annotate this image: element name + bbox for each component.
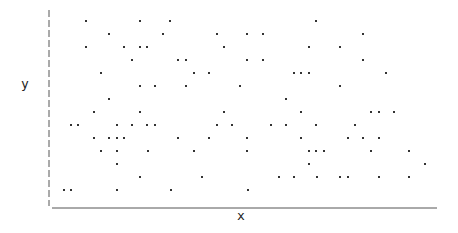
data-point <box>108 137 110 139</box>
data-point <box>354 124 356 126</box>
data-point <box>70 189 72 191</box>
data-point <box>131 124 133 126</box>
data-point <box>77 124 79 126</box>
data-point <box>370 111 372 113</box>
data-point <box>308 72 310 74</box>
data-point <box>146 124 148 126</box>
data-point <box>170 189 172 191</box>
data-point <box>378 137 380 139</box>
data-point <box>108 33 110 35</box>
data-point <box>239 85 241 87</box>
data-point <box>246 59 248 61</box>
data-point <box>100 72 102 74</box>
data-point <box>63 189 65 191</box>
data-point <box>123 137 125 139</box>
data-point <box>293 176 295 178</box>
data-point <box>315 124 317 126</box>
data-point <box>139 111 141 113</box>
data-point <box>347 176 349 178</box>
data-point <box>424 163 426 165</box>
data-point <box>308 163 310 165</box>
data-point <box>223 46 225 48</box>
data-point <box>362 137 364 139</box>
data-point <box>177 137 179 139</box>
data-point <box>339 176 341 178</box>
data-point <box>262 59 264 61</box>
data-point <box>246 150 248 152</box>
data-point <box>139 20 141 22</box>
data-point <box>116 189 118 191</box>
data-point <box>285 124 287 126</box>
data-point <box>139 176 141 178</box>
data-point <box>116 124 118 126</box>
data-point <box>223 111 225 113</box>
data-point <box>85 20 87 22</box>
data-point <box>270 124 272 126</box>
data-point <box>393 111 395 113</box>
data-point <box>201 176 203 178</box>
data-point <box>316 176 318 178</box>
data-point <box>162 33 164 35</box>
data-point <box>116 137 118 139</box>
data-point <box>285 98 287 100</box>
data-point <box>185 85 187 87</box>
data-point <box>293 72 295 74</box>
data-point <box>108 98 110 100</box>
data-point <box>323 150 325 152</box>
data-point <box>139 85 141 87</box>
data-point <box>362 33 364 35</box>
data-point <box>408 176 410 178</box>
data-point <box>378 176 380 178</box>
data-point <box>139 46 141 48</box>
data-point <box>193 72 195 74</box>
data-point <box>216 124 218 126</box>
data-point <box>193 150 195 152</box>
data-point <box>308 150 310 152</box>
data-point <box>100 150 102 152</box>
data-point <box>116 150 118 152</box>
data-points <box>63 20 426 191</box>
data-point <box>315 20 317 22</box>
data-point <box>347 137 349 139</box>
data-point <box>177 59 179 61</box>
data-point <box>169 20 171 22</box>
data-point <box>116 163 118 165</box>
data-point <box>278 176 280 178</box>
data-point <box>408 150 410 152</box>
data-point <box>315 150 317 152</box>
data-point <box>231 124 233 126</box>
data-point <box>147 150 149 152</box>
data-point <box>154 124 156 126</box>
data-point <box>85 46 87 48</box>
data-point <box>70 124 72 126</box>
data-point <box>378 111 380 113</box>
data-point <box>339 85 341 87</box>
data-point <box>123 46 125 48</box>
data-point <box>300 137 302 139</box>
data-point <box>385 72 387 74</box>
data-point <box>246 33 248 35</box>
data-point <box>131 59 133 61</box>
data-point <box>216 33 218 35</box>
data-point <box>93 111 95 113</box>
data-point <box>185 59 187 61</box>
data-point <box>154 85 156 87</box>
data-point <box>262 33 264 35</box>
data-point <box>208 137 210 139</box>
data-point <box>300 72 302 74</box>
y-axis-label: y <box>21 76 29 91</box>
data-point <box>246 137 248 139</box>
data-point <box>370 150 372 152</box>
data-point <box>208 72 210 74</box>
data-point <box>247 189 249 191</box>
data-point <box>300 111 302 113</box>
data-point <box>339 46 341 48</box>
data-point <box>308 46 310 48</box>
x-axis-label: x <box>237 208 245 223</box>
data-point <box>146 46 148 48</box>
data-point <box>362 59 364 61</box>
data-point <box>93 137 95 139</box>
scatter-chart <box>0 0 458 233</box>
